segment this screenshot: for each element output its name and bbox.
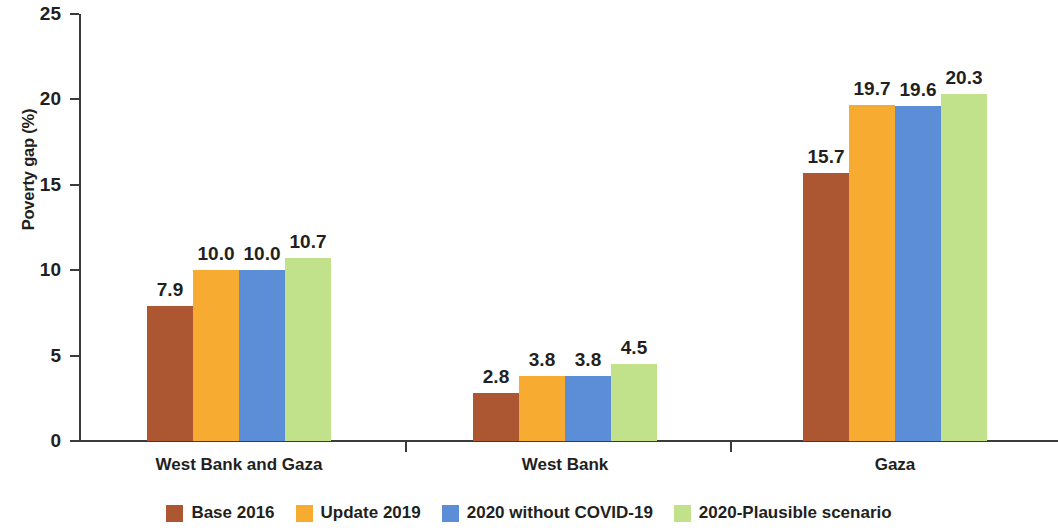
bar-value-label: 10.0 [244, 243, 281, 265]
legend-item[interactable]: 2020 without COVID-19 [442, 503, 653, 523]
y-axis-tick-label: 10 [40, 259, 61, 281]
chart-legend: Base 2016Update 20192020 without COVID-1… [0, 503, 1058, 523]
plot-area: 0510152025 7.910.010.010.72.83.83.84.515… [79, 14, 1058, 441]
bar: 4.5 [611, 364, 657, 441]
bar-value-label: 4.5 [621, 337, 647, 359]
y-axis-tick: 25 [70, 13, 79, 15]
poverty-gap-bar-chart: Poverty gap (%) 0510152025 7.910.010.010… [0, 0, 1058, 530]
bar-value-label: 15.7 [808, 146, 845, 168]
bar-value-label: 3.8 [529, 349, 555, 371]
bar: 15.7 [803, 173, 849, 441]
x-axis-group-separator-tick [730, 441, 732, 452]
y-axis-tick: 20 [70, 98, 79, 100]
bar-value-label: 20.3 [946, 67, 983, 89]
y-axis-tick: 0 [70, 440, 79, 442]
x-axis-group-separator-tick [405, 441, 407, 452]
bar: 10.7 [285, 258, 331, 441]
legend-label: 2020-Plausible scenario [699, 503, 892, 523]
bar: 10.0 [239, 270, 285, 441]
y-axis-title: Poverty gap (%) [19, 90, 38, 250]
legend-swatch [674, 505, 691, 522]
x-axis-category-label: West Bank [522, 455, 609, 475]
legend-swatch [166, 505, 183, 522]
legend-item[interactable]: 2020-Plausible scenario [674, 503, 892, 523]
bar-value-label: 19.7 [854, 78, 891, 100]
bar: 20.3 [941, 94, 987, 441]
bar-value-label: 19.6 [900, 79, 937, 101]
x-axis-category-label: West Bank and Gaza [156, 455, 323, 475]
legend-label: Update 2019 [321, 503, 421, 523]
y-axis-line [79, 14, 81, 441]
y-axis-tick: 5 [70, 355, 79, 357]
bar: 19.7 [849, 105, 895, 441]
y-axis-tick-label: 25 [40, 3, 61, 25]
bar-value-label: 3.8 [575, 349, 601, 371]
bar: 7.9 [147, 306, 193, 441]
y-axis-tick: 15 [70, 184, 79, 186]
legend-item[interactable]: Base 2016 [166, 503, 274, 523]
bar-value-label: 10.0 [198, 243, 235, 265]
y-axis-tick-label: 0 [50, 430, 61, 452]
bar: 2.8 [473, 393, 519, 441]
y-axis-tick-label: 20 [40, 88, 61, 110]
y-axis-tick-label: 5 [50, 344, 61, 366]
bar-value-label: 2.8 [483, 366, 509, 388]
bar: 3.8 [565, 376, 611, 441]
bar: 10.0 [193, 270, 239, 441]
legend-label: 2020 without COVID-19 [467, 503, 653, 523]
bar: 19.6 [895, 106, 941, 441]
bar-value-label: 7.9 [157, 279, 183, 301]
y-axis-tick: 10 [70, 269, 79, 271]
legend-swatch [442, 505, 459, 522]
legend-item[interactable]: Update 2019 [296, 503, 421, 523]
x-axis-category-label: Gaza [875, 455, 916, 475]
legend-swatch [296, 505, 313, 522]
y-axis-tick-label: 15 [40, 173, 61, 195]
bar-value-label: 10.7 [290, 231, 327, 253]
bar: 3.8 [519, 376, 565, 441]
legend-label: Base 2016 [191, 503, 274, 523]
